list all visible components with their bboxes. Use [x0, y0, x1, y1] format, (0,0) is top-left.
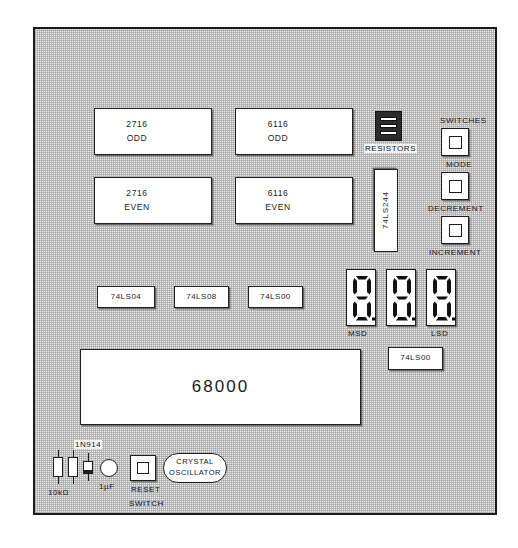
segment-dp — [452, 318, 455, 321]
button-cap — [137, 462, 149, 474]
display-msd-label: MSD — [347, 329, 368, 338]
board-diagram: 2716 ODD 6116 ODD 2716 EVEN 6116 EVEN RE… — [0, 0, 518, 548]
crystal-oscillator[interactable]: CRYSTAL OSCILLATOR — [163, 453, 227, 483]
chip-part-label: 6116 — [268, 118, 289, 131]
segment-c — [367, 302, 371, 319]
capacitor-value-label: 1µF — [98, 482, 116, 491]
chip-part-label: 2716 — [126, 187, 147, 200]
segment-g — [396, 297, 408, 300]
button-cap — [449, 180, 462, 193]
resistor-element — [380, 124, 396, 128]
chip-bank-label: EVEN — [124, 201, 150, 214]
diode-label: 1N914 — [74, 440, 102, 449]
resistor-body[interactable] — [68, 457, 78, 477]
chip-74ls08[interactable]: 74LS08 — [174, 286, 229, 308]
segment-d — [396, 317, 408, 321]
segment-d — [436, 317, 448, 321]
segment-e — [433, 302, 437, 319]
chip-6116-odd[interactable]: 6116 ODD — [235, 108, 353, 155]
reset-switch-label-line2: SWITCH — [128, 499, 165, 508]
seven-segment-svg — [347, 270, 377, 327]
button-cap — [449, 136, 462, 149]
button-cap — [449, 224, 462, 237]
capacitor-body[interactable] — [100, 459, 118, 477]
diode-cathode-band — [84, 470, 93, 473]
cpu-part-label: 68000 — [192, 374, 249, 400]
button-decrement[interactable] — [441, 172, 469, 200]
segment-f — [433, 278, 437, 295]
resistor-pack-label: RESISTORS — [364, 144, 417, 153]
segment-f — [353, 278, 357, 295]
chip-bank-label: ODD — [127, 132, 148, 145]
reset-switch-button[interactable] — [130, 455, 156, 481]
segment-e — [393, 302, 397, 319]
segment-g — [436, 297, 448, 300]
segment-b — [447, 278, 451, 295]
chip-part-label: 2716 — [126, 118, 147, 131]
segment-dp — [372, 318, 375, 321]
chip-part-label: 74LS00 — [400, 352, 431, 364]
chip-bank-label: EVEN — [265, 201, 291, 214]
segment-f — [393, 278, 397, 295]
seven-segment-svg — [387, 270, 417, 327]
chip-part-label: 74LS08 — [186, 291, 217, 303]
resistor-element — [380, 131, 396, 135]
button-increment-label: INCREMENT — [428, 248, 483, 257]
chip-68000-cpu[interactable]: 68000 — [80, 349, 361, 425]
chip-2716-even[interactable]: 2716 EVEN — [94, 177, 212, 224]
segment-e — [353, 302, 357, 319]
segment-a — [356, 276, 368, 280]
switches-group-label: SWITCHES — [439, 116, 488, 125]
chip-74ls00[interactable]: 74LS00 — [248, 286, 303, 308]
reset-switch-label-line1: RESET — [130, 485, 161, 494]
chip-part-label: 6116 — [268, 187, 289, 200]
seven-segment-display-msd — [346, 269, 376, 326]
circuit-board: 2716 ODD 6116 ODD 2716 EVEN 6116 EVEN RE… — [33, 27, 497, 515]
button-increment[interactable] — [441, 216, 469, 244]
segment-b — [367, 278, 371, 295]
resistor-value-label: 10kΩ — [47, 488, 70, 497]
seven-segment-display-lsd — [426, 269, 456, 326]
seven-segment-display-middle — [386, 269, 416, 326]
resistor-body[interactable] — [53, 457, 63, 477]
segment-g — [356, 297, 368, 300]
segment-b — [407, 278, 411, 295]
chip-74ls00-display-decoder[interactable]: 74LS00 — [388, 347, 443, 370]
segment-dp — [412, 318, 415, 321]
chip-bank-label: ODD — [268, 132, 289, 145]
chip-74ls244[interactable]: 74LS244 — [374, 169, 398, 252]
resistor-element — [380, 117, 396, 121]
segment-c — [407, 302, 411, 319]
button-mode-label: MODE — [445, 160, 473, 169]
chip-part-label: 74LS04 — [111, 291, 142, 303]
oscillator-label-line1: CRYSTAL — [176, 457, 213, 468]
chip-2716-odd[interactable]: 2716 ODD — [94, 108, 212, 155]
button-mode[interactable] — [441, 128, 469, 156]
segment-d — [356, 317, 368, 321]
segment-a — [436, 276, 448, 280]
resistor-pack-icon[interactable] — [375, 111, 402, 141]
chip-part-label: 74LS244 — [380, 192, 392, 230]
button-decrement-label: DECREMENT — [427, 204, 485, 213]
display-lsd-label: LSD — [430, 329, 449, 338]
segment-a — [396, 276, 408, 280]
chip-6116-even[interactable]: 6116 EVEN — [235, 177, 353, 224]
seven-segment-svg — [427, 270, 457, 327]
chip-part-label: 74LS00 — [260, 291, 291, 303]
segment-c — [447, 302, 451, 319]
chip-74ls04[interactable]: 74LS04 — [97, 286, 155, 308]
oscillator-label-line2: OSCILLATOR — [169, 468, 221, 479]
